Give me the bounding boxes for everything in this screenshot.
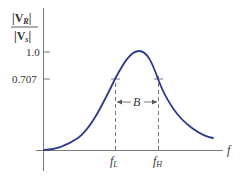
bandwidth-label: B <box>133 95 141 109</box>
ytick-label-1.0: 1.0 <box>26 46 40 58</box>
xtick-label-fL: fL <box>110 154 118 169</box>
x-axis-label: f <box>227 143 232 157</box>
svg-text:|VR|: |VR| <box>12 11 31 26</box>
svg-text:|Vs|: |Vs| <box>14 29 31 44</box>
ytick-label-0.707: 0.707 <box>12 73 37 85</box>
bandwidth-arrow: B <box>117 95 157 109</box>
y-axis-label: |VR| |Vs| <box>11 11 38 44</box>
xtick-label-fH: fH <box>153 154 163 169</box>
bandpass-response-chart: |VR| |Vs| 1.0 0.707 B fL fH f <box>0 0 244 178</box>
response-curve <box>44 51 213 150</box>
